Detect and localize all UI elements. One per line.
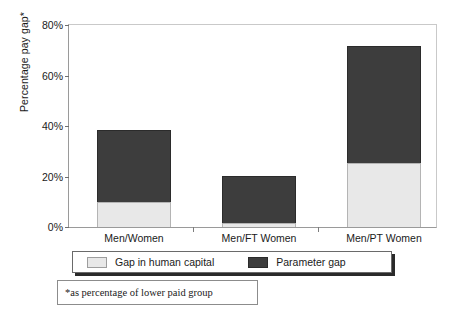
footnote-text: *as percentage of lower paid group: [58, 287, 213, 298]
y-tick-label-20: 20%: [23, 171, 69, 182]
legend-label-parameter-gap: Parameter gap: [276, 256, 345, 268]
chart-legend: Gap in human capital Parameter gap: [72, 251, 392, 273]
legend-item-parameter-gap[interactable]: Parameter gap: [248, 256, 345, 268]
bar-segment-parameter-gap[interactable]: [222, 176, 296, 223]
legend-item-human-capital[interactable]: Gap in human capital: [87, 256, 214, 268]
x-axis-label-men-pt-women: Men/PT Women: [314, 232, 454, 244]
y-tick-label-60: 60%: [23, 70, 69, 81]
plot-frame: 80% 60% 40% 20% 0% Men/Women Men/FT Wo: [68, 24, 437, 228]
bar-segment-human-capital[interactable]: [347, 163, 421, 227]
y-tick-label-40: 40%: [23, 121, 69, 132]
bar-men-pt-women[interactable]: [347, 46, 421, 227]
footnote-box: *as percentage of lower paid group: [57, 280, 258, 305]
x-axis-label-men-women: Men/Women: [64, 232, 204, 244]
bar-segment-human-capital[interactable]: [97, 202, 171, 228]
x-axis-label-men-ft-women: Men/FT Women: [189, 232, 329, 244]
stacked-bar-chart: Percentage pay gap* 80% 60% 40% 20% 0% M…: [0, 0, 455, 315]
legend-swatch-icon-light: [87, 257, 107, 268]
bar-men-ft-women[interactable]: [222, 176, 296, 227]
y-tick-label-0: 0%: [23, 222, 69, 233]
bar-segment-parameter-gap[interactable]: [97, 130, 171, 201]
bar-men-women[interactable]: [97, 130, 171, 227]
plot-area: 80% 60% 40% 20% 0% Men/Women Men/FT Wo: [69, 25, 436, 227]
bar-segment-parameter-gap[interactable]: [347, 46, 421, 163]
legend-swatch-icon-dark: [248, 257, 268, 268]
bar-segment-human-capital[interactable]: [222, 223, 296, 227]
y-tick-label-80: 80%: [23, 20, 69, 31]
legend-label-human-capital: Gap in human capital: [115, 256, 214, 268]
